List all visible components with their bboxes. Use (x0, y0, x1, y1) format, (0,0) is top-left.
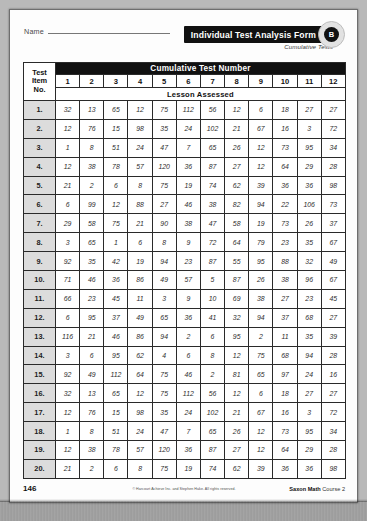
lesson-cell[interactable]: 8 (152, 233, 176, 252)
lesson-cell[interactable]: 65 (104, 384, 128, 403)
lesson-cell[interactable]: 27 (297, 384, 321, 403)
lesson-cell[interactable]: 19 (128, 252, 152, 271)
lesson-cell[interactable]: 2 (80, 176, 104, 195)
lesson-cell[interactable]: 1 (56, 138, 80, 157)
lesson-cell[interactable]: 1 (104, 233, 128, 252)
lesson-cell[interactable]: 38 (80, 441, 104, 460)
lesson-cell[interactable]: 12 (225, 384, 249, 403)
lesson-cell[interactable]: 76 (80, 403, 104, 422)
lesson-cell[interactable]: 82 (225, 195, 249, 214)
lesson-cell[interactable]: 3 (152, 289, 176, 308)
lesson-cell[interactable]: 35 (297, 233, 321, 252)
lesson-cell[interactable]: 64 (128, 365, 152, 384)
lesson-cell[interactable]: 26 (297, 214, 321, 233)
lesson-cell[interactable]: 37 (104, 308, 128, 327)
lesson-cell[interactable]: 9 (176, 233, 200, 252)
lesson-cell[interactable]: 92 (56, 365, 80, 384)
lesson-cell[interactable]: 23 (80, 289, 104, 308)
lesson-cell[interactable]: 27 (321, 384, 345, 403)
lesson-cell[interactable]: 18 (273, 384, 297, 403)
lesson-cell[interactable]: 42 (104, 252, 128, 271)
lesson-cell[interactable]: 13 (80, 101, 104, 120)
lesson-cell[interactable]: 8 (128, 176, 152, 195)
lesson-cell[interactable]: 35 (152, 119, 176, 138)
lesson-cell[interactable]: 49 (80, 365, 104, 384)
lesson-cell[interactable]: 36 (176, 441, 200, 460)
lesson-cell[interactable]: 94 (249, 195, 273, 214)
lesson-cell[interactable]: 19 (176, 459, 200, 478)
lesson-cell[interactable]: 29 (297, 441, 321, 460)
lesson-cell[interactable]: 6 (249, 384, 273, 403)
lesson-cell[interactable]: 39 (249, 459, 273, 478)
lesson-cell[interactable]: 3 (297, 403, 321, 422)
lesson-cell[interactable]: 95 (225, 327, 249, 346)
lesson-cell[interactable]: 24 (128, 422, 152, 441)
lesson-cell[interactable]: 62 (225, 459, 249, 478)
lesson-cell[interactable]: 72 (321, 403, 345, 422)
lesson-cell[interactable]: 12 (225, 101, 249, 120)
lesson-cell[interactable]: 8 (200, 346, 224, 365)
lesson-cell[interactable]: 95 (249, 252, 273, 271)
lesson-cell[interactable]: 39 (249, 176, 273, 195)
lesson-cell[interactable]: 75 (152, 101, 176, 120)
lesson-cell[interactable]: 94 (249, 308, 273, 327)
lesson-cell[interactable]: 12 (128, 101, 152, 120)
lesson-cell[interactable]: 75 (152, 365, 176, 384)
lesson-cell[interactable]: 112 (176, 384, 200, 403)
lesson-cell[interactable]: 12 (56, 157, 80, 176)
lesson-cell[interactable]: 9 (176, 289, 200, 308)
lesson-cell[interactable]: 38 (200, 195, 224, 214)
lesson-cell[interactable]: 5 (200, 271, 224, 290)
lesson-cell[interactable]: 15 (104, 403, 128, 422)
lesson-cell[interactable]: 75 (104, 214, 128, 233)
lesson-cell[interactable]: 3 (56, 346, 80, 365)
lesson-cell[interactable]: 73 (273, 422, 297, 441)
lesson-cell[interactable]: 34 (321, 422, 345, 441)
lesson-cell[interactable]: 6 (249, 101, 273, 120)
lesson-cell[interactable]: 10 (200, 289, 224, 308)
lesson-cell[interactable]: 24 (176, 119, 200, 138)
lesson-cell[interactable]: 24 (297, 365, 321, 384)
lesson-cell[interactable]: 6 (104, 459, 128, 478)
lesson-cell[interactable]: 28 (321, 346, 345, 365)
lesson-cell[interactable]: 58 (225, 214, 249, 233)
lesson-cell[interactable]: 2 (200, 365, 224, 384)
lesson-cell[interactable]: 90 (152, 214, 176, 233)
lesson-cell[interactable]: 26 (225, 138, 249, 157)
lesson-cell[interactable]: 27 (273, 289, 297, 308)
lesson-cell[interactable]: 12 (56, 441, 80, 460)
lesson-cell[interactable]: 67 (249, 119, 273, 138)
lesson-cell[interactable]: 36 (297, 459, 321, 478)
lesson-cell[interactable]: 26 (225, 422, 249, 441)
lesson-cell[interactable]: 51 (104, 138, 128, 157)
lesson-cell[interactable]: 102 (200, 403, 224, 422)
lesson-cell[interactable]: 92 (56, 252, 80, 271)
lesson-cell[interactable]: 98 (321, 459, 345, 478)
lesson-cell[interactable]: 64 (273, 441, 297, 460)
lesson-cell[interactable]: 65 (200, 138, 224, 157)
lesson-cell[interactable]: 88 (273, 252, 297, 271)
lesson-cell[interactable]: 67 (321, 271, 345, 290)
lesson-cell[interactable]: 34 (321, 138, 345, 157)
lesson-cell[interactable]: 67 (321, 233, 345, 252)
lesson-cell[interactable]: 21 (80, 327, 104, 346)
lesson-cell[interactable]: 6 (104, 176, 128, 195)
lesson-cell[interactable]: 21 (56, 176, 80, 195)
lesson-cell[interactable]: 57 (128, 441, 152, 460)
lesson-cell[interactable]: 65 (104, 101, 128, 120)
lesson-cell[interactable]: 62 (225, 176, 249, 195)
lesson-cell[interactable]: 35 (297, 327, 321, 346)
lesson-cell[interactable]: 73 (273, 138, 297, 157)
lesson-cell[interactable]: 57 (176, 271, 200, 290)
lesson-cell[interactable]: 28 (321, 441, 345, 460)
lesson-cell[interactable]: 12 (249, 157, 273, 176)
lesson-cell[interactable]: 98 (128, 403, 152, 422)
lesson-cell[interactable]: 38 (80, 157, 104, 176)
lesson-cell[interactable]: 47 (152, 422, 176, 441)
lesson-cell[interactable]: 35 (152, 403, 176, 422)
lesson-cell[interactable]: 41 (200, 308, 224, 327)
lesson-cell[interactable]: 21 (128, 214, 152, 233)
lesson-cell[interactable]: 86 (128, 327, 152, 346)
lesson-cell[interactable]: 87 (200, 157, 224, 176)
lesson-cell[interactable]: 36 (273, 176, 297, 195)
